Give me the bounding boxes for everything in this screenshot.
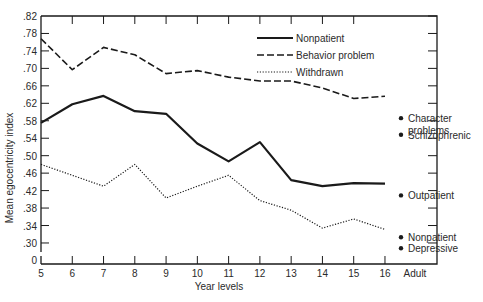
series-nonpatient [41, 96, 385, 186]
y-tick-label: .30 [23, 238, 37, 249]
legend: NonpatientBehavior problemWithdrawn [257, 33, 374, 78]
adult-point-label: Outpatient [408, 190, 454, 201]
adult-point-marker [399, 246, 403, 250]
adult-points: CharacterproblemsSchizophrenicOutpatient… [399, 113, 471, 254]
x-tick-label: 15 [348, 268, 360, 279]
y-axis-title: Mean egocentricity index [4, 113, 15, 224]
y-tick-label: .74 [23, 46, 37, 57]
x-tick-label: 11 [223, 268, 234, 279]
egocentricity-line-chart: .82.78.74.70.66.62.58.54.50.46.42.38.34.… [0, 0, 483, 302]
y-tick-label: .54 [23, 133, 37, 144]
x-tick-label: 13 [286, 268, 298, 279]
adult-point-marker [399, 133, 403, 137]
y-tick-label: .42 [23, 186, 37, 197]
y-tick-label: .62 [23, 98, 37, 109]
y-tick-label: .66 [23, 81, 37, 92]
plot-border [41, 16, 437, 264]
y-tick-label: .34 [23, 221, 37, 232]
y-tick-label: .50 [23, 151, 37, 162]
adult-point-label: Nonpatient [408, 232, 457, 243]
y-tick-label: .46 [23, 168, 37, 179]
x-tick-label: 14 [317, 268, 329, 279]
y-tick-label-zero: 0 [31, 255, 37, 266]
x-tick-label: 8 [132, 268, 138, 279]
legend-label: Withdrawn [296, 67, 343, 78]
x-tick-label: 10 [192, 268, 204, 279]
x-tick-label: 6 [69, 268, 75, 279]
y-tick-label: .70 [23, 63, 37, 74]
adult-point-marker [399, 193, 403, 197]
y-tick-label: .38 [23, 203, 37, 214]
x-tick-label: 12 [254, 268, 266, 279]
x-tick-label: 16 [379, 268, 391, 279]
y-tick-label: .78 [23, 28, 37, 39]
y-tick-label: .58 [23, 116, 37, 127]
legend-label: Behavior problem [296, 50, 374, 61]
x-tick-label: 5 [38, 268, 44, 279]
x-axis-title: Year levels [195, 281, 244, 292]
x-tick-label: Adult [404, 268, 427, 279]
adult-point-marker [399, 116, 403, 120]
plot-frame [41, 16, 437, 264]
legend-label: Nonpatient [296, 33, 345, 44]
y-tick-label: .82 [23, 11, 37, 22]
series-withdrawn [41, 164, 385, 229]
adult-point-marker [399, 235, 403, 239]
y-axis: .82.78.74.70.66.62.58.54.50.46.42.38.34.… [23, 11, 437, 266]
x-tick-label: 7 [101, 268, 107, 279]
x-tick-label: 9 [163, 268, 169, 279]
adult-point-label: Depressive [408, 243, 458, 254]
adult-point-label: Schizophrenic [408, 130, 471, 141]
